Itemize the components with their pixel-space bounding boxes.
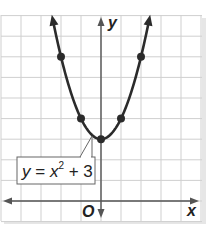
data-point (117, 115, 125, 123)
data-point (97, 135, 105, 143)
data-point (137, 53, 145, 61)
x-axis-label: x (186, 202, 197, 219)
equation-label: y = x2 + 3 (21, 160, 93, 181)
data-point (57, 53, 65, 61)
data-point (77, 115, 85, 123)
y-axis-label: y (107, 14, 118, 31)
parabola-graph: y = x2 + 3 y x O (0, 0, 211, 226)
origin-label: O (82, 203, 95, 220)
